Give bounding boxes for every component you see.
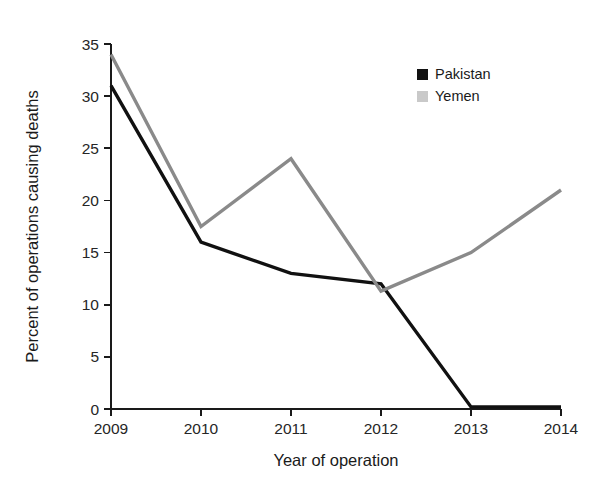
y-tick-label: 35	[82, 36, 99, 53]
x-tick-label: 2012	[364, 420, 398, 437]
legend-swatch-yemen	[417, 91, 428, 102]
chart-container: 05101520253035200920102011201220132014 Y…	[0, 0, 590, 484]
axis-layer: 05101520253035200920102011201220132014	[82, 36, 579, 438]
y-axis-title: Percent of operations causing deaths	[23, 90, 41, 362]
series-layer	[111, 54, 561, 406]
chart-legend: Pakistan Yemen	[417, 66, 491, 105]
y-tick-label: 30	[82, 88, 100, 105]
x-tick-label: 2011	[274, 420, 307, 437]
x-tick-label: 2009	[94, 420, 128, 437]
legend-label-pakistan: Pakistan	[435, 66, 491, 83]
y-tick-label: 10	[82, 296, 100, 313]
legend-item-pakistan: Pakistan	[417, 66, 491, 83]
x-tick-label: 2014	[544, 420, 579, 437]
legend-item-yemen: Yemen	[417, 88, 491, 105]
x-tick-label: 2013	[454, 420, 488, 437]
x-tick-label: 2010	[184, 420, 219, 437]
x-axis-title: Year of operation	[273, 451, 398, 469]
series-line-pakistan	[111, 86, 561, 407]
y-tick-label: 5	[90, 348, 99, 365]
line-chart-plot: 05101520253035200920102011201220132014 Y…	[0, 0, 590, 484]
y-tick-label: 25	[82, 140, 99, 157]
y-tick-label: 0	[90, 401, 99, 418]
series-line-yemen	[111, 54, 561, 291]
legend-label-yemen: Yemen	[435, 88, 480, 105]
y-tick-label: 15	[82, 244, 99, 261]
y-tick-label: 20	[82, 192, 100, 209]
legend-swatch-pakistan	[417, 69, 428, 80]
